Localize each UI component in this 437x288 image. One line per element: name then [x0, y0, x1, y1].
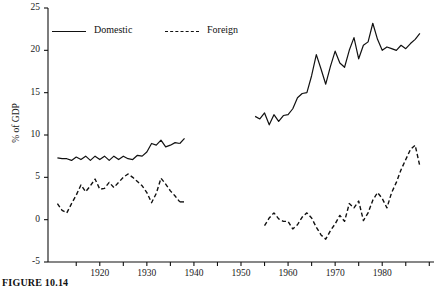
y-axis-tick-label: -5: [8, 257, 40, 267]
series-line-foreign-postwar: [265, 145, 420, 239]
data-series: [57, 23, 419, 239]
axes: [44, 8, 434, 266]
chart-legend: Domestic Foreign: [52, 23, 252, 41]
y-axis-tick-label: 15: [8, 88, 40, 98]
x-axis-tick-label: 1970: [313, 269, 357, 279]
x-axis-tick-label: 1960: [266, 269, 310, 279]
series-line-domestic-prewar: [57, 140, 179, 160]
y-axis-tick-label: 5: [8, 172, 40, 182]
x-axis-tick-label: 1950: [219, 269, 263, 279]
chart-canvas: [0, 0, 437, 288]
series-line-foreign-prewar: [57, 174, 179, 213]
y-axis-title: % of GDP: [11, 93, 21, 153]
legend-swatch-solid-line: [52, 31, 86, 32]
figure-caption: FIGURE 10.14: [2, 277, 68, 288]
x-axis-tick-label: 1940: [172, 269, 216, 279]
y-axis-tick-label: 0: [8, 215, 40, 225]
legend-label-foreign: Foreign: [207, 24, 238, 35]
x-axis-tick-label: 1920: [78, 269, 122, 279]
legend-label-domestic: Domestic: [94, 24, 132, 35]
series-line-domestic-prewar: [180, 138, 185, 143]
y-axis-tick-label: 10: [8, 130, 40, 140]
series-line-domestic-postwar: [255, 23, 420, 125]
y-axis-tick-label: 25: [8, 3, 40, 13]
y-axis-tick-label: 20: [8, 45, 40, 55]
x-axis-tick-label: 1930: [125, 269, 169, 279]
x-axis-tick-label: 1980: [360, 269, 404, 279]
legend-swatch-dashed-line: [165, 31, 199, 32]
figure-container: % of GDP -50510152025 192019301940195019…: [0, 0, 437, 288]
